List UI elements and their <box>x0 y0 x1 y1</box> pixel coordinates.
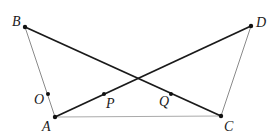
label-q: Q <box>159 94 169 109</box>
geometry-diagram: B D C A O P Q <box>0 0 277 137</box>
segment-ad <box>55 26 251 117</box>
label-p: P <box>105 96 115 111</box>
point-q <box>169 92 173 96</box>
segment-cd <box>221 26 251 116</box>
point-a <box>53 115 57 119</box>
label-c: C <box>224 119 234 134</box>
point-d <box>249 24 253 28</box>
label-b: B <box>12 14 21 29</box>
label-o: O <box>34 92 44 107</box>
segment-ac <box>55 116 221 117</box>
point-b <box>23 25 27 29</box>
label-d: D <box>255 15 266 30</box>
segment-bc <box>25 27 221 116</box>
label-a: A <box>41 119 51 134</box>
point-o <box>46 92 50 96</box>
point-c <box>219 114 223 118</box>
